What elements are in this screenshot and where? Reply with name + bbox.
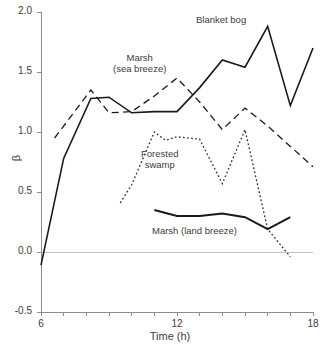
x-tick-label: 6: [29, 318, 53, 329]
series-label-marsh-land-breeze: Marsh (land breeze): [152, 225, 237, 236]
x-tick-label: 12: [165, 318, 189, 329]
series-label-forested-swamp: Forested swamp: [141, 148, 179, 170]
y-tick-label: 1.0: [6, 125, 32, 136]
y-tick-label: 2.0: [6, 5, 32, 16]
x-tick-label: 18: [301, 318, 320, 329]
y-tick-label: 0.0: [6, 245, 32, 256]
y-tick-label: -0.5: [6, 305, 32, 316]
series-label-marsh-sea-breeze: Marsh (sea breeze): [113, 52, 166, 74]
y-axis-label: β: [10, 138, 22, 178]
series-line-marsh-sea-breeze: [55, 78, 313, 167]
chart-figure: β Time (h) -0.50.00.51.01.52.0 61218 Bla…: [0, 0, 320, 350]
x-axis-label: Time (h): [110, 330, 230, 342]
series-label-blanket-bog: Blanket bog: [196, 14, 246, 25]
y-tick-label: 1.5: [6, 65, 32, 76]
y-tick-label: 0.5: [6, 185, 32, 196]
